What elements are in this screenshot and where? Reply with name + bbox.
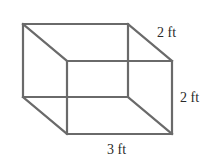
edge-top-left — [23, 24, 67, 61]
edge-bottom-right — [128, 97, 172, 134]
rectangular-prism-diagram — [0, 0, 219, 160]
edge-bottom-left — [23, 97, 67, 134]
depth-label: 2 ft — [157, 26, 176, 40]
height-label: 2 ft — [180, 91, 199, 105]
length-label: 3 ft — [107, 143, 126, 157]
